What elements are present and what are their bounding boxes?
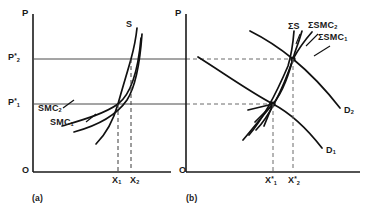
curve-label-d1: D1 <box>326 146 336 156</box>
smc1-sub: 1 <box>71 121 74 127</box>
curve-label-sum-s: ΣS <box>288 22 300 31</box>
x2-sub: 2 <box>136 179 139 185</box>
panel-b-quantity-tick-x1-star: X*1 <box>265 176 277 186</box>
sum-smc1-base: ΣSMC <box>318 32 344 42</box>
p2-sub: 2 <box>17 57 20 63</box>
smc1-base: SMC <box>50 117 71 127</box>
d2-base: D <box>344 105 351 115</box>
panel-a-origin-label: O <box>22 166 29 175</box>
x1s-sub: 1 <box>274 180 277 186</box>
panel-b-y-axis-label: P <box>175 8 182 18</box>
curve-label-sum-smc1: ΣSMC1 <box>318 33 347 43</box>
sum-smc2-sub: 2 <box>334 24 337 30</box>
d1-sub: 1 <box>333 149 336 155</box>
sum-s-base: ΣS <box>288 21 300 31</box>
panel-a-quantity-tick-x2: X2 <box>130 176 139 186</box>
panel-a-caption: (a) <box>32 194 43 203</box>
panel-b-origin-label: O <box>179 166 186 175</box>
p1-sub: 1 <box>17 102 20 108</box>
curve-sum-smc2 <box>249 31 294 135</box>
panel-a-price-tick-p2: P*2 <box>8 53 20 63</box>
panel-a-axes <box>33 14 171 172</box>
leader-sum-smc1 <box>314 46 330 56</box>
sum-smc1-sub: 1 <box>344 36 347 42</box>
curve-label-d2: D2 <box>344 106 354 116</box>
x2s-sub: 2 <box>297 180 300 186</box>
curve-label-smc2: SMC2 <box>38 104 62 114</box>
curve-label-sum-smc2: ΣSMC2 <box>308 21 337 31</box>
smc2-base: SMC <box>38 103 59 113</box>
curve-label-smc1: SMC1 <box>50 118 74 128</box>
curve-smc1 <box>62 38 141 126</box>
smc2-sub: 2 <box>59 107 62 113</box>
curve-label-s: S <box>126 20 132 29</box>
sum-smc2-base: ΣSMC <box>308 20 334 30</box>
panel-a-y-axis-label: P <box>22 8 29 18</box>
economics-figure: P O P*2 P*1 X1 X2 S SMC2 SMC1 (a) P O ΣS… <box>0 0 372 216</box>
x1-sub: 1 <box>118 179 121 185</box>
d1-base: D <box>326 145 333 155</box>
s-base: S <box>126 19 132 29</box>
panel-a-price-tick-p1: P*1 <box>8 98 20 108</box>
curve-d1 <box>198 57 322 148</box>
panel-a-quantity-tick-x1: X1 <box>112 176 121 186</box>
panel-b-quantity-tick-x2-star: X*2 <box>288 176 300 186</box>
d2-sub: 2 <box>351 109 354 115</box>
panel-b-caption: (b) <box>186 194 197 203</box>
